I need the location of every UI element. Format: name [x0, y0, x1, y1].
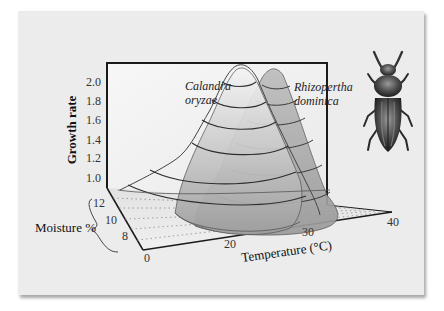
svg-text:oryzae: oryzae — [185, 93, 218, 107]
svg-text:10: 10 — [105, 213, 117, 227]
svg-text:Rhizopertha: Rhizopertha — [293, 80, 353, 94]
svg-text:2.0: 2.0 — [86, 75, 101, 89]
svg-text:12: 12 — [93, 196, 105, 210]
svg-text:1.2: 1.2 — [86, 151, 101, 165]
svg-text:1.0: 1.0 — [86, 171, 101, 185]
svg-text:1.6: 1.6 — [86, 113, 101, 127]
z-axis-ticks: 2.0 1.8 1.6 1.4 1.2 1.0 — [86, 75, 101, 185]
species-label-rhizopertha: Rhizopertha dominica — [293, 80, 353, 108]
svg-text:Calandra: Calandra — [185, 79, 231, 93]
svg-text:1.8: 1.8 — [86, 94, 101, 108]
svg-text:40: 40 — [387, 215, 399, 229]
svg-text:30: 30 — [302, 225, 314, 239]
temperature-axis-title: Temperature (°C) — [240, 237, 332, 265]
svg-text:1.4: 1.4 — [86, 133, 101, 147]
beetle-icon — [364, 52, 412, 152]
svg-text:20: 20 — [224, 237, 236, 251]
svg-text:8: 8 — [122, 229, 128, 243]
growth-surface-chart: Calandra oryzae Rhizopertha dominica 2.0… — [0, 0, 444, 311]
z-axis-title: Growth rate — [64, 95, 79, 164]
svg-text:0: 0 — [144, 251, 150, 265]
svg-text:dominica: dominica — [294, 94, 339, 108]
moisture-axis-title: Moisture % — [35, 220, 96, 235]
